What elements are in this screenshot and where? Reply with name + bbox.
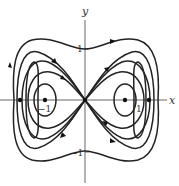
phase-portrait-diagram: y x 1 −1 −1 1	[0, 0, 179, 186]
equilibrium-saddle-origin	[83, 98, 87, 102]
equilibrium-center-left	[43, 98, 47, 102]
equilibrium-center-right	[123, 98, 127, 102]
x-tick-label-1: 1	[136, 104, 142, 114]
x-tick-label-neg1: −1	[38, 104, 51, 114]
y-axis-label: y	[81, 5, 89, 18]
arrow-upper-left-sep-icon	[8, 62, 12, 68]
x-axis-label: x	[169, 94, 176, 107]
equilibrium-point-far-right	[147, 98, 151, 102]
equilibrium-point-far-left	[18, 98, 22, 102]
